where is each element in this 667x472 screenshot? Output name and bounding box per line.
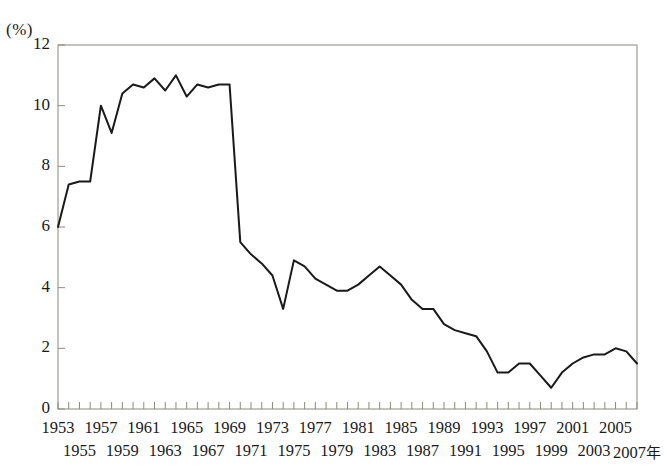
data-line-series (58, 75, 637, 387)
y-axis-tick-label: 12 (10, 34, 50, 54)
y-axis-tick-label: 10 (10, 95, 50, 115)
x-axis-label-top-row: 2005 (584, 418, 648, 438)
y-axis-tick-label: 4 (10, 277, 50, 297)
y-axis-tick-label: 6 (10, 216, 50, 236)
y-axis-tick-label: 0 (10, 398, 50, 418)
chart-container: (%) 024681012 19531957196119651969197319… (0, 0, 667, 472)
x-axis-label-bottom-row: 2007年 (605, 441, 667, 463)
y-axis-tick-label: 2 (10, 337, 50, 357)
line-chart-plot (0, 0, 667, 472)
y-axis-tick-label: 8 (10, 155, 50, 175)
plot-frame (58, 45, 637, 409)
